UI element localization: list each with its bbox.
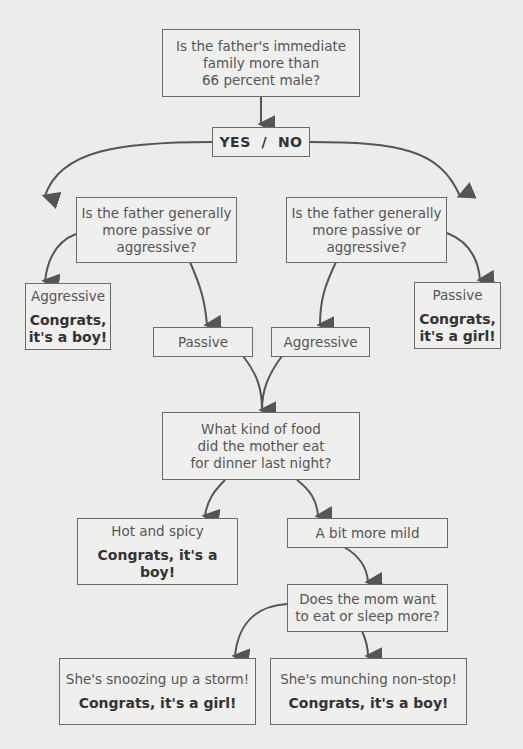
question-mom-eat-sleep: Does the mom want to eat or sleep more? [287,584,448,632]
result-snoozing-girl: She's snoozing up a storm! Congrats, it'… [59,658,256,725]
q-right-line-3: aggressive? [326,239,406,256]
passive-label: Passive [433,287,483,303]
q-mom-line-2: to eat or sleep more? [295,608,440,625]
result-line-1: Congrats, [419,311,496,328]
yes-no-label: YES / NO [219,134,302,150]
passive-label: Passive [178,334,228,350]
mild-label: A bit more mild [316,525,420,541]
q1-line-1: Is the father's immediate [176,38,346,55]
result-line-2: it's a boy! [29,329,107,346]
result-text: Congrats, it's a boy! [78,547,237,581]
result-munching-boy: She's munching non-stop! Congrats, it's … [270,658,467,725]
question-mother-dinner: What kind of food did the mother eat for… [162,412,360,480]
q1-line-2: family more than [203,55,319,72]
answer-mild: A bit more mild [287,518,448,548]
result-text: Congrats, it's a boy! [289,695,449,712]
q-right-line-2: more passive or [312,222,420,239]
hot-spicy-label: Hot and spicy [111,523,203,539]
connector-arrows [0,0,523,749]
answer-aggressive: Aggressive [271,327,370,357]
result-hot-spicy-boy: Hot and spicy Congrats, it's a boy! [77,518,238,585]
q-food-line-2: did the mother eat [198,438,325,455]
q-left-line-3: aggressive? [116,239,196,256]
result-passive-girl: Passive Congrats, it's a girl! [414,282,501,349]
result-aggressive-boy: Aggressive Congrats, it's a boy! [25,283,111,350]
result-line-2: it's a girl! [419,328,495,345]
q-mom-line-1: Does the mom want [299,591,436,608]
result-text: Congrats, it's a girl! [79,695,237,712]
aggressive-label: Aggressive [283,334,357,350]
aggressive-label: Aggressive [31,288,105,304]
result-line-1: Congrats, [30,312,107,329]
q-right-line-1: Is the father generally [292,205,442,222]
q-food-line-1: What kind of food [201,421,321,438]
q-left-line-2: more passive or [102,222,210,239]
question-father-passive-aggressive-right: Is the father generally more passive or … [286,197,447,263]
question-father-passive-aggressive-left: Is the father generally more passive or … [76,197,237,263]
yes-no-box: YES / NO [212,127,310,157]
q-food-line-3: for dinner last night? [191,455,332,472]
question-father-family-male: Is the father's immediate family more th… [162,29,360,97]
munching-label: She's munching non-stop! [280,671,457,687]
answer-passive: Passive [153,327,253,357]
snoozing-label: She's snoozing up a storm! [66,671,249,687]
q-left-line-1: Is the father generally [82,205,232,222]
q1-line-3: 66 percent male? [202,72,320,89]
